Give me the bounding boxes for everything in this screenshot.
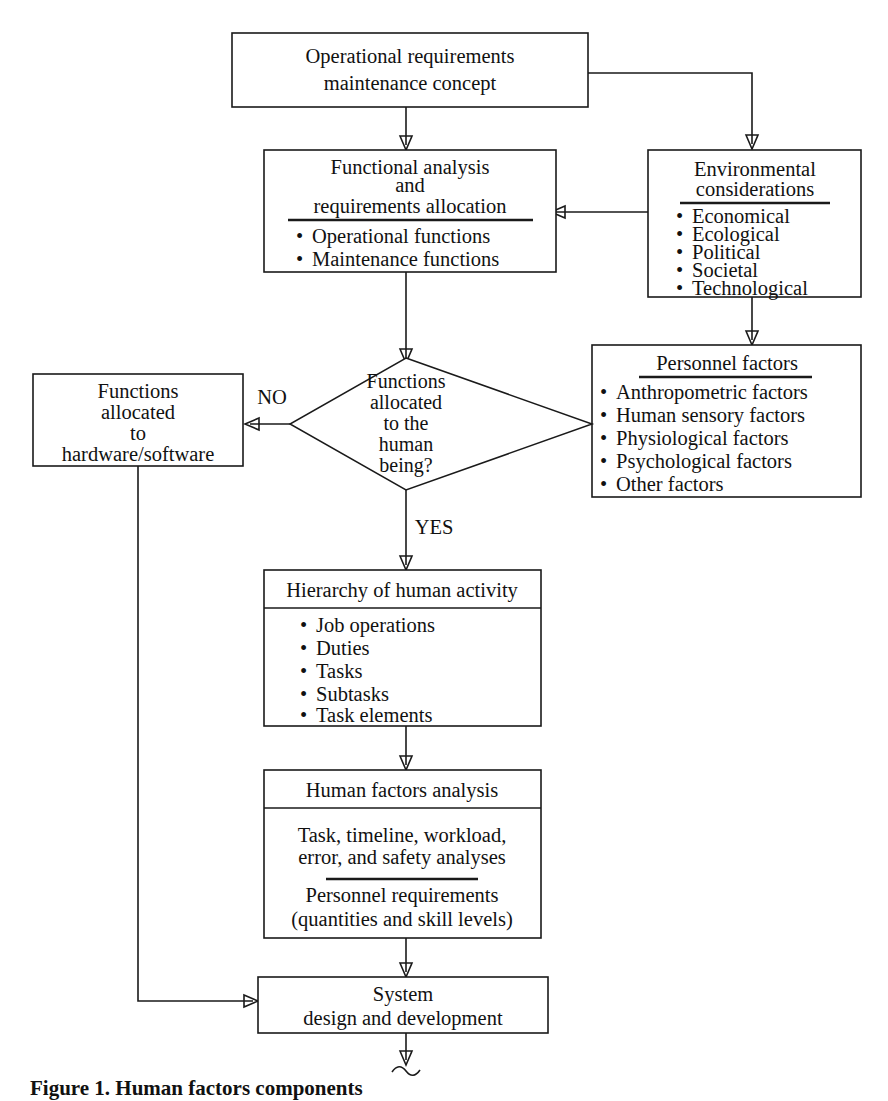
bullet-icon: •	[300, 683, 307, 705]
hardware-software-line-2: allocated	[101, 401, 175, 423]
edge-label-yes: YES	[415, 516, 454, 538]
decision-line-2: allocated	[370, 391, 442, 413]
hardware-software-line-3: to	[130, 422, 146, 444]
personnel-factors-item-2: Human sensory factors	[616, 404, 805, 427]
node-operational-requirements[interactable]: Operational requirements maintenance con…	[232, 33, 588, 107]
edge-functional-to-decision	[400, 272, 412, 363]
figure-caption: Figure 1. Human factors components	[30, 1076, 363, 1101]
bullet-icon: •	[296, 248, 303, 270]
edge-hardware-to-system	[138, 466, 258, 1007]
bullet-icon: •	[300, 637, 307, 659]
human-factors-body-top-1: Task, timeline, workload,	[298, 824, 507, 846]
edge-environmental-to-personnel	[746, 297, 758, 345]
node-hierarchy-human-activity[interactable]: Hierarchy of human activity • Job operat…	[264, 570, 541, 726]
edge-operational-to-environmental	[588, 73, 758, 149]
hierarchy-item-4: Subtasks	[316, 683, 389, 705]
node-hardware-software[interactable]: Functions allocated to hardware/software	[33, 374, 243, 466]
node-functional-analysis[interactable]: Functional analysis and requirements all…	[264, 150, 556, 272]
edge-decision-yes-to-hierarchy	[400, 490, 412, 570]
environmental-header-2: considerations	[696, 178, 814, 200]
bullet-icon: •	[676, 277, 683, 299]
system-design-line-1: System	[373, 983, 433, 1006]
edge-human-factors-to-system	[400, 938, 412, 977]
bullet-icon: •	[600, 381, 607, 403]
bullet-icon: •	[600, 427, 607, 449]
edge-operational-to-functional	[400, 107, 412, 150]
node-environmental-considerations[interactable]: Environmental considerations • Economica…	[648, 150, 861, 300]
bullet-icon: •	[300, 660, 307, 682]
bullet-icon: •	[600, 450, 607, 472]
decision-line-3: to the	[384, 412, 429, 434]
system-design-line-2: design and development	[303, 1007, 503, 1030]
figure-caption-label: Figure 1.	[30, 1076, 110, 1100]
figure-caption-text: Human factors components	[115, 1076, 362, 1100]
environmental-item-5: Technological	[692, 277, 808, 300]
hierarchy-item-5: Task elements	[316, 704, 432, 726]
node-system-design[interactable]: System design and development	[258, 977, 548, 1033]
functional-analysis-header-2: and	[395, 174, 425, 196]
functional-analysis-header-3: requirements allocation	[314, 195, 507, 218]
node-decision-functions-allocated[interactable]: Functions allocated to the human being?	[290, 358, 592, 490]
human-factors-body-bottom-1: Personnel requirements	[306, 884, 499, 907]
functional-analysis-item-1: Operational functions	[312, 225, 490, 248]
edge-system-continuation	[392, 1033, 420, 1075]
personnel-factors-item-5: Other factors	[616, 473, 724, 495]
decision-line-5: being?	[379, 454, 432, 477]
hierarchy-item-1: Job operations	[316, 614, 435, 637]
node-personnel-factors[interactable]: Personnel factors • Anthropometric facto…	[592, 345, 861, 497]
human-factors-header: Human factors analysis	[306, 779, 498, 802]
human-factors-body-bottom-2: (quantities and skill levels)	[291, 908, 512, 931]
bullet-icon: •	[600, 404, 607, 426]
personnel-factors-item-3: Physiological factors	[616, 427, 789, 450]
decision-line-4: human	[379, 433, 433, 455]
hardware-software-line-4: hardware/software	[62, 443, 215, 465]
node-human-factors-analysis[interactable]: Human factors analysis Task, timeline, w…	[264, 770, 541, 938]
hierarchy-item-2: Duties	[316, 637, 370, 659]
decision-line-1: Functions	[367, 370, 446, 392]
bullet-icon: •	[300, 614, 307, 636]
environmental-header-1: Environmental	[694, 158, 816, 180]
hardware-software-line-1: Functions	[98, 380, 179, 402]
edge-environmental-to-functional	[551, 206, 648, 218]
hierarchy-header: Hierarchy of human activity	[286, 579, 518, 602]
human-factors-body-top-2: error, and safety analyses	[298, 846, 506, 869]
bullet-icon: •	[600, 473, 607, 495]
bullet-icon: •	[300, 704, 307, 726]
operational-requirements-line-1: Operational requirements	[306, 45, 515, 68]
edge-hierarchy-to-human-factors	[400, 726, 412, 770]
edge-decision-no-to-hardware	[245, 418, 290, 430]
hierarchy-item-3: Tasks	[316, 660, 362, 682]
flowchart-canvas: Operational requirements maintenance con…	[0, 0, 888, 1101]
personnel-factors-header: Personnel factors	[656, 352, 798, 374]
bullet-icon: •	[296, 225, 303, 247]
edge-label-no: NO	[257, 386, 287, 408]
personnel-factors-item-4: Psychological factors	[616, 450, 792, 473]
functional-analysis-item-2: Maintenance functions	[312, 248, 499, 270]
personnel-factors-item-1: Anthropometric factors	[616, 381, 808, 404]
operational-requirements-line-2: maintenance concept	[324, 72, 497, 95]
